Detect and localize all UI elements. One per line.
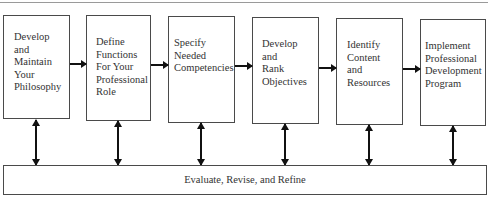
- step-line: Rank: [262, 63, 307, 76]
- step-define-functions: Define Functions For Your Professional R…: [86, 15, 151, 121]
- step-line: Develop: [262, 38, 307, 51]
- step-line: Maintain: [14, 56, 61, 69]
- step-line: Development: [425, 65, 482, 78]
- step-line: and: [14, 44, 61, 57]
- step-line: Role: [96, 86, 148, 99]
- arrow-right-icon: [70, 63, 86, 65]
- feedback-label: Evaluate, Revise, and Refine: [4, 174, 486, 185]
- feedback-bar: Evaluate, Revise, and Refine: [3, 165, 487, 195]
- step-line: Define: [96, 36, 148, 49]
- double-arrow-vertical-icon: [200, 123, 202, 165]
- step-line: Develop: [14, 31, 61, 44]
- arrow-right-icon: [319, 67, 336, 69]
- step-line: Professional: [425, 53, 482, 66]
- step-identify-content: Identify Content and Resources: [336, 18, 403, 125]
- step-line: Identify: [347, 39, 390, 52]
- step-line: Functions: [96, 49, 148, 62]
- step-line: Content: [347, 52, 390, 65]
- step-line: Specify: [174, 37, 233, 50]
- step-rank-objectives: Develop and Rank Objectives: [252, 17, 319, 124]
- top-rule: [0, 2, 488, 3]
- step-line: For Your: [96, 61, 148, 74]
- arrow-right-icon: [151, 64, 168, 66]
- step-line: and: [262, 51, 307, 64]
- step-implement-program: Implement Professional Development Progr…: [420, 19, 486, 126]
- step-line: Your: [14, 69, 61, 82]
- double-arrow-vertical-icon: [284, 124, 286, 165]
- step-line: and: [347, 64, 390, 77]
- step-line: Needed: [174, 50, 233, 63]
- step-line: Philosophy: [14, 81, 61, 94]
- arrow-right-icon: [235, 65, 252, 67]
- step-specify-competencies: Specify Needed Competencies: [168, 16, 235, 123]
- step-line: Competencies: [174, 62, 233, 75]
- arrow-right-icon: [403, 68, 420, 70]
- step-line: Professional: [96, 74, 148, 87]
- step-line: Resources: [347, 77, 390, 90]
- double-arrow-vertical-icon: [452, 126, 454, 165]
- double-arrow-vertical-icon: [35, 120, 37, 165]
- double-arrow-vertical-icon: [368, 125, 370, 165]
- step-line: Implement: [425, 40, 482, 53]
- step-line: Objectives: [262, 76, 307, 89]
- step-line: Program: [425, 78, 482, 91]
- double-arrow-vertical-icon: [117, 121, 119, 165]
- step-develop-philosophy: Develop and Maintain Your Philosophy: [3, 15, 70, 119]
